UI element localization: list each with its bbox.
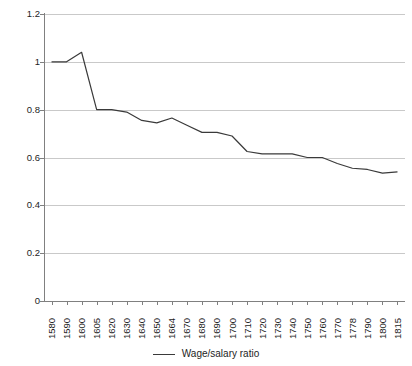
legend-line-swatch: [153, 354, 175, 355]
legend-item-label: Wage/salary ratio: [182, 349, 259, 359]
x-tick-label: 1600: [76, 303, 87, 339]
gridline: [44, 110, 405, 111]
x-tick-label: 1730: [272, 303, 283, 339]
y-tick-label: 0.2: [2, 248, 40, 258]
x-tick-label: 1815: [392, 303, 403, 339]
x-axis-labels: 1580159016001605162016301640165016641670…: [44, 303, 405, 343]
x-tick-label: 1760: [317, 303, 328, 339]
x-tick-label: 1770: [332, 303, 343, 339]
x-tick-label: 1650: [151, 303, 162, 339]
x-tick-label: 1605: [91, 303, 102, 339]
x-tick-label: 1580: [46, 303, 57, 339]
x-tick-label: 1630: [121, 303, 132, 339]
x-tick-label: 1670: [181, 303, 192, 339]
gridline: [44, 253, 405, 254]
x-tick-label: 1690: [211, 303, 222, 339]
x-tick-label: 1720: [257, 303, 268, 339]
y-tick-label: 1.2: [2, 9, 40, 19]
x-axis-line: [44, 301, 405, 302]
series-line: [52, 52, 398, 173]
x-tick-label: 1750: [302, 303, 313, 339]
y-tick-label: 0.8: [2, 105, 40, 115]
y-tick-label: 0: [2, 296, 40, 306]
x-tick-label: 1778: [347, 303, 358, 339]
x-tick-label: 1664: [166, 303, 177, 339]
y-axis-line: [44, 13, 45, 302]
x-tick-label: 1800: [377, 303, 388, 339]
wage-salary-ratio-line-chart: 00.20.40.60.811.2 1580159016001605162016…: [0, 0, 412, 366]
x-tick-label: 1640: [136, 303, 147, 339]
x-tick-label: 1700: [227, 303, 238, 339]
x-tick-label: 1680: [196, 303, 207, 339]
x-tick-label: 1590: [61, 303, 72, 339]
gridline: [44, 205, 405, 206]
gridline: [44, 62, 405, 63]
y-tick-label: 0.4: [2, 200, 40, 210]
gridline: [44, 158, 405, 159]
x-tick-label: 1710: [242, 303, 253, 339]
y-axis-ticks: 00.20.40.60.811.2: [0, 0, 40, 320]
x-tick-label: 1790: [362, 303, 373, 339]
y-tick-label: 0.6: [2, 153, 40, 163]
x-tick-label: 1740: [287, 303, 298, 339]
y-tick-label: 1: [2, 57, 40, 67]
gridline: [44, 14, 405, 15]
x-tick-label: 1620: [106, 303, 117, 339]
chart-legend: Wage/salary ratio: [0, 345, 412, 363]
